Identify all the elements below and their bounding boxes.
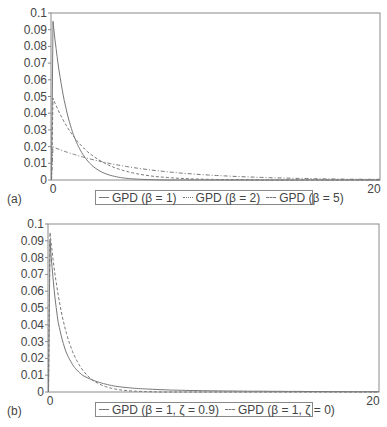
legend-item-zeta09: GPD (β = 1, ζ = 0.9)	[99, 403, 219, 417]
y-tick-label: 0.05	[21, 301, 45, 315]
legend-a: GPD (β = 1) GPD (β = 2) GPD (β = 5)	[95, 190, 313, 205]
y-tick-label: 0.1	[27, 217, 44, 231]
y-tick-label: 0.03	[24, 123, 48, 137]
series-line	[49, 232, 380, 392]
chart-a: 00.010.020.030.040.050.060.070.080.090.1…	[0, 0, 387, 427]
dashed-line-icon	[225, 409, 235, 410]
dotted-line-icon	[183, 197, 193, 198]
y-tick-label: 0.02	[21, 351, 45, 365]
y-tick-label: 0.09	[21, 234, 45, 248]
y-tick-label: 0.08	[24, 39, 48, 53]
y-tick-label: 0.07	[21, 267, 45, 281]
legend-b: GPD (β = 1, ζ = 0.9) GPD (β = 1, ζ = 0)	[95, 402, 313, 417]
x-tick-label: 0	[47, 394, 54, 408]
y-tick-label: 0.06	[21, 284, 45, 298]
y-tick-label: 0.05	[24, 90, 48, 104]
y-tick-label: 0.1	[30, 6, 47, 20]
y-tick-label: 0.04	[24, 106, 48, 120]
panel-label-a: (a)	[7, 192, 22, 206]
chart-a-plot: 00.010.020.030.040.050.060.070.080.090.1…	[24, 6, 381, 196]
legend-item-beta1: GPD (β = 1)	[99, 191, 177, 205]
legend-label: GPD (β = 5)	[279, 191, 344, 205]
y-tick-label: 0	[40, 173, 47, 187]
chart-b-plot: 00.010.020.030.040.050.060.070.080.090.1…	[21, 217, 380, 408]
series-line	[52, 147, 381, 180]
y-tick-label: 0.04	[21, 318, 45, 332]
y-tick-label: 0.06	[24, 73, 48, 87]
series-line	[52, 98, 381, 180]
series-line	[49, 241, 380, 392]
solid-line-icon	[99, 409, 109, 410]
x-tick-label: 0	[50, 182, 57, 196]
legend-label: GPD (β = 1)	[112, 191, 177, 205]
y-tick-label: 0.01	[21, 368, 45, 382]
x-tick-label: 20	[366, 394, 380, 408]
plot-frame	[51, 13, 380, 180]
legend-item-zeta0: GPD (β = 1, ζ = 0)	[225, 403, 335, 417]
y-tick-label: 0.07	[24, 56, 48, 70]
y-tick-label: 0.01	[24, 156, 48, 170]
solid-line-icon	[99, 197, 109, 198]
y-tick-label: 0.08	[21, 251, 45, 265]
plot-frame	[48, 224, 379, 392]
legend-label: GPD (β = 1, ζ = 0.9)	[112, 403, 219, 417]
y-tick-label: 0.09	[24, 23, 48, 37]
panel-label-b: (b)	[7, 404, 22, 418]
x-tick-label: 20	[367, 182, 381, 196]
legend-label: GPD (β = 2)	[196, 191, 261, 205]
legend-item-beta2: GPD (β = 2)	[183, 191, 261, 205]
legend-item-beta5: GPD (β = 5)	[266, 191, 344, 205]
series-line	[52, 21, 381, 180]
y-tick-label: 0	[37, 385, 44, 399]
y-tick-label: 0.03	[21, 335, 45, 349]
legend-label: GPD (β = 1, ζ = 0)	[238, 403, 335, 417]
dashdot-line-icon	[266, 197, 276, 198]
y-tick-label: 0.02	[24, 140, 48, 154]
